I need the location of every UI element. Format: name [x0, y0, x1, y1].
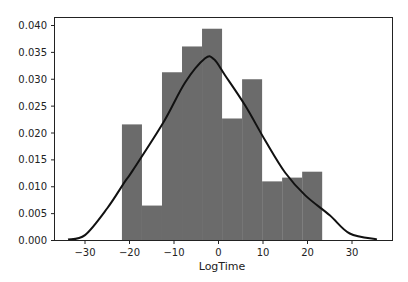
- histogram-bar: [162, 72, 182, 240]
- x-tick-label: −20: [119, 247, 140, 258]
- y-tick-label: 0.040: [18, 20, 47, 31]
- x-tick-label: 10: [257, 247, 270, 258]
- y-tick-label: 0.005: [18, 208, 47, 219]
- histogram-bar: [262, 181, 282, 240]
- x-tick-label: 0: [215, 247, 221, 258]
- histogram-bars: [122, 29, 322, 241]
- x-tick-label: 30: [346, 247, 359, 258]
- histogram-bar: [182, 46, 202, 240]
- y-axis: 0.0000.0050.0100.0150.0200.0250.0300.035…: [18, 20, 54, 246]
- y-tick-label: 0.000: [18, 235, 47, 246]
- x-axis: −30−20−100102030: [74, 241, 358, 259]
- x-tick-label: 20: [301, 247, 314, 258]
- y-tick-label: 0.020: [18, 128, 47, 139]
- x-tick-label: −30: [74, 247, 95, 258]
- y-tick-label: 0.010: [18, 181, 47, 192]
- histogram-chart: −30−20−100102030 0.0000.0050.0100.0150.0…: [0, 0, 408, 282]
- y-tick-label: 0.035: [18, 47, 47, 58]
- histogram-bar: [242, 79, 262, 240]
- y-tick-label: 0.030: [18, 74, 47, 85]
- x-axis-label: LogTime: [199, 260, 246, 273]
- histogram-bar: [222, 118, 242, 240]
- histogram-bar: [202, 29, 222, 241]
- y-tick-label: 0.015: [18, 154, 47, 165]
- x-tick-label: −10: [163, 247, 184, 258]
- histogram-bar: [282, 178, 302, 241]
- y-tick-label: 0.025: [18, 101, 47, 112]
- histogram-bar: [142, 206, 162, 241]
